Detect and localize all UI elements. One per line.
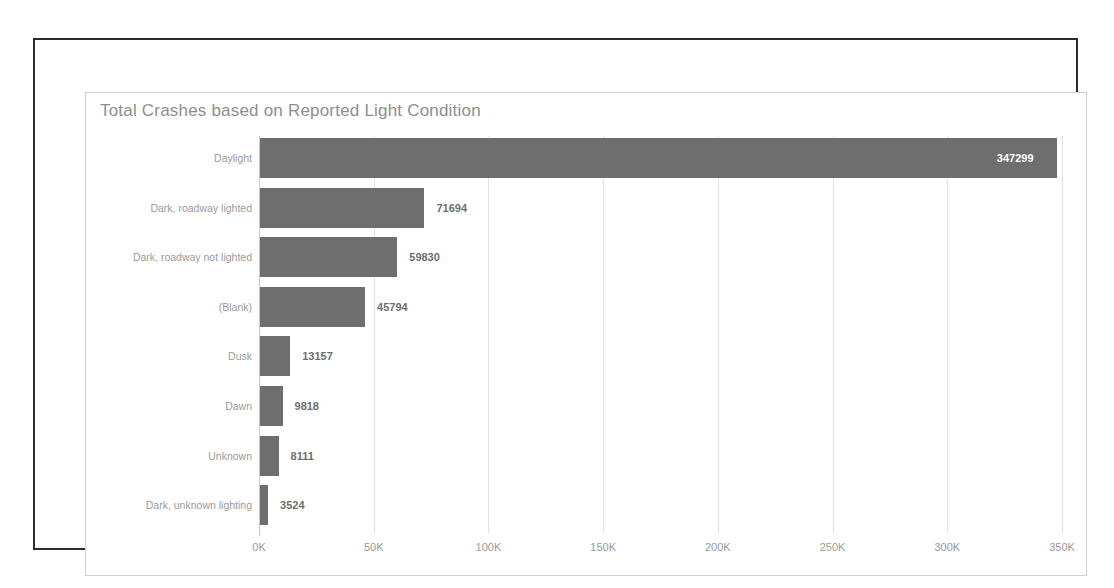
x-tick-label: 250K [820, 541, 846, 553]
bar-value-label: 13157 [302, 350, 333, 362]
x-gridline [488, 136, 489, 533]
category-label: Dark, unknown lighting [146, 499, 252, 511]
bar[interactable] [260, 485, 268, 525]
chart-card: Total Crashes based on Reported Light Co… [85, 92, 1087, 576]
bar-value-label: 59830 [409, 251, 440, 263]
x-gridline [603, 136, 604, 533]
bar-value-label: 9818 [295, 400, 319, 412]
category-label: (Blank) [219, 301, 252, 313]
x-tick-label: 350K [1049, 541, 1075, 553]
x-gridline [833, 136, 834, 533]
bar[interactable] [260, 287, 365, 327]
category-label: Unknown [208, 450, 252, 462]
x-tick-label: 200K [705, 541, 731, 553]
bar-value-label: 3524 [280, 499, 304, 511]
plot-area: 0K50K100K150K200K250K300K350KDaylight347… [86, 93, 1088, 577]
bar-value-label: 71694 [436, 202, 467, 214]
bar-value-label: 8111 [291, 450, 314, 462]
bar[interactable] [260, 386, 283, 426]
x-gridline [1062, 136, 1063, 533]
category-label: Dawn [225, 400, 252, 412]
screenshot-root: Total Crashes based on Reported Light Co… [0, 0, 1114, 588]
category-label: Dark, roadway not lighted [133, 251, 252, 263]
category-label: Dark, roadway lighted [150, 202, 252, 214]
outer-frame: Total Crashes based on Reported Light Co… [33, 38, 1078, 550]
bar[interactable] [260, 436, 279, 476]
category-label: Dusk [228, 350, 252, 362]
x-tick-label: 50K [364, 541, 384, 553]
bar[interactable] [260, 188, 424, 228]
bar-value-label: 45794 [377, 301, 408, 313]
bar-value-label: 347299 [997, 152, 1034, 164]
x-tick-label: 150K [590, 541, 616, 553]
x-gridline [947, 136, 948, 533]
bar[interactable] [260, 237, 397, 277]
x-gridline [718, 136, 719, 533]
category-label: Daylight [214, 152, 252, 164]
x-tick-label: 300K [934, 541, 960, 553]
x-tick-label: 0K [252, 541, 265, 553]
bar[interactable] [260, 138, 1057, 178]
bar[interactable] [260, 336, 290, 376]
x-tick-label: 100K [476, 541, 502, 553]
